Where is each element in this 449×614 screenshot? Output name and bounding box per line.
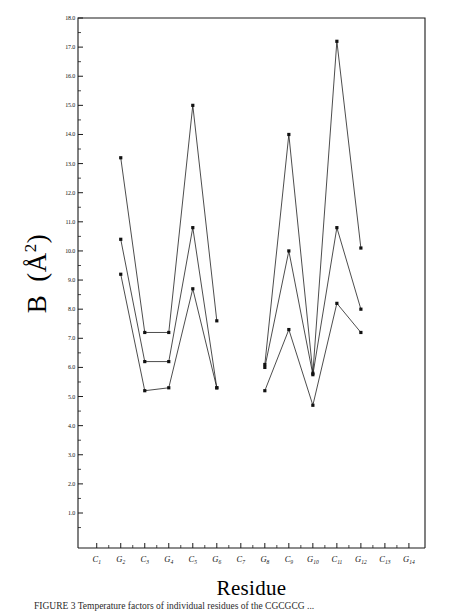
data-point-marker <box>335 40 338 43</box>
x-tick-subscript: 7 <box>242 559 245 565</box>
y-tick-label: 17.0 <box>65 44 75 50</box>
axes-group <box>78 18 425 548</box>
x-tick-subscript: 8 <box>267 559 270 565</box>
y-tick-label: 18.0 <box>65 15 75 21</box>
data-point-marker <box>119 273 122 276</box>
data-point-marker <box>287 328 290 331</box>
x-tick-label: G12 <box>355 554 367 565</box>
series-line-series-4 <box>265 41 361 373</box>
x-tick-subscript: 2 <box>122 559 125 565</box>
data-point-marker <box>287 133 290 136</box>
x-tick-subscript: 10 <box>313 559 319 565</box>
data-point-marker <box>119 156 122 159</box>
y-tick-label: 9.0 <box>68 277 75 283</box>
x-tick-subscript: 3 <box>145 559 149 565</box>
x-tick-subscript: 9 <box>290 559 293 565</box>
x-tick-label: G2 <box>116 554 125 565</box>
y-tick-label: 15.0 <box>65 102 75 108</box>
y-tick-label: 14.0 <box>65 131 75 137</box>
y-tick-label: 10.0 <box>65 248 75 254</box>
y-tick-label: 12.0 <box>65 190 75 196</box>
x-tick-label: G4 <box>164 554 173 565</box>
x-tick-label: C7 <box>237 554 246 565</box>
data-point-marker <box>167 386 170 389</box>
y-tick-label: 6.0 <box>68 364 75 370</box>
x-tick-label: G6 <box>212 554 221 565</box>
series-line-series-1 <box>121 105 217 332</box>
data-point-marker <box>359 308 362 311</box>
x-tick-subscript: 1 <box>98 559 101 565</box>
data-point-marker <box>143 360 146 363</box>
y-tick-label: 7.0 <box>68 335 75 341</box>
data-point-marker <box>167 360 170 363</box>
plot-frame <box>78 18 425 548</box>
data-point-marker <box>359 246 362 249</box>
figure-panel: B(Å2) 18.017.016.015.014.013.012.011.010… <box>0 0 449 614</box>
y-tick-label: 5.0 <box>68 394 75 400</box>
series-line-series-5 <box>265 228 361 375</box>
x-tick-label: G8 <box>260 554 269 565</box>
x-tick-label: C9 <box>285 554 294 565</box>
x-tick-label: C5 <box>189 554 198 565</box>
figure-caption: FIGURE 3 Temperature factors of individu… <box>34 600 434 614</box>
chart-plot-area: 18.017.016.015.014.013.012.011.010.09.08… <box>0 0 449 614</box>
y-tick-label: 13.0 <box>65 161 75 167</box>
y-tick-label: 16.0 <box>65 73 75 79</box>
x-tick-group: C1G2C3G4C5G6C7G8C9G10C11G12C13G14 <box>93 543 415 565</box>
y-tick-label: 2.0 <box>68 481 75 487</box>
x-tick-subscript: 11 <box>337 559 342 565</box>
x-tick-subscript: 14 <box>409 559 415 565</box>
x-tick-subscript: 4 <box>170 559 173 565</box>
data-point-marker <box>263 389 266 392</box>
y-tick-label: 4.0 <box>68 423 75 429</box>
data-point-marker <box>191 226 194 229</box>
data-point-marker <box>143 389 146 392</box>
data-point-marker <box>167 331 170 334</box>
data-point-marker <box>311 404 314 407</box>
x-tick-label: C11 <box>331 554 342 565</box>
x-tick-label: C3 <box>141 554 150 565</box>
data-series-group <box>119 40 362 407</box>
data-point-marker <box>335 302 338 305</box>
data-point-marker <box>191 287 194 290</box>
x-tick-subscript: 12 <box>361 559 367 565</box>
y-tick-label: 1.0 <box>68 510 75 516</box>
data-point-marker <box>359 331 362 334</box>
x-tick-subscript: 13 <box>385 559 391 565</box>
data-point-marker <box>143 331 146 334</box>
y-tick-label: 11.0 <box>66 219 76 225</box>
data-point-marker <box>311 373 314 376</box>
x-tick-label: C13 <box>379 554 390 565</box>
series-line-series-2 <box>121 228 217 388</box>
x-tick-subscript: 5 <box>194 559 197 565</box>
x-tick-label: G14 <box>403 554 415 565</box>
data-point-marker <box>191 104 194 107</box>
x-tick-subscript: 6 <box>218 559 221 565</box>
x-tick-label: G10 <box>307 554 319 565</box>
x-axis-title: Residue <box>78 576 425 601</box>
y-tick-label: 3.0 <box>68 452 75 458</box>
x-tick-label: C1 <box>93 554 102 565</box>
data-point-marker <box>335 226 338 229</box>
y-tick-group: 18.017.016.015.014.013.012.011.010.09.08… <box>65 15 83 528</box>
y-tick-label: 8.0 <box>68 306 75 312</box>
data-point-marker <box>119 238 122 241</box>
series-line-series-6 <box>265 303 361 405</box>
data-point-marker <box>215 386 218 389</box>
data-point-marker <box>215 319 218 322</box>
data-point-marker <box>287 249 290 252</box>
data-point-marker <box>263 366 266 369</box>
